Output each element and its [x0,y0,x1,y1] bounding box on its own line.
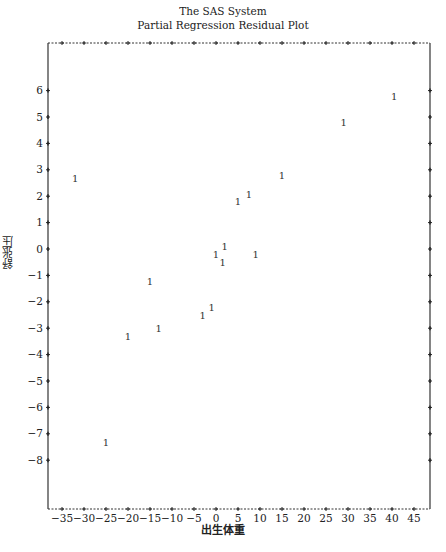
data-point: 1 [219,257,225,268]
y-tick-label: −7 [28,427,43,439]
y-axis-label: 舒张压 [2,236,22,269]
data-point: 1 [252,249,258,260]
data-point: 1 [340,117,346,128]
data-point: 1 [222,241,228,252]
data-point: 1 [208,302,214,313]
y-tick-label: 5 [36,111,43,123]
y-tick-label: −5 [28,375,43,387]
y-tick-label: 1 [36,216,43,228]
data-point: 1 [213,249,219,260]
x-axis-label: 出生体重 [0,521,446,537]
data-point: 1 [103,437,109,448]
y-tick-label: −8 [28,454,43,466]
data-point: 1 [391,91,397,102]
data-point: 1 [279,170,285,181]
y-tick-label: 4 [36,137,43,149]
data-point: 1 [147,276,153,287]
y-tick-label: −1 [28,269,43,281]
data-point: 1 [125,331,131,342]
data-point: 1 [235,196,241,207]
data-point: 1 [156,323,162,334]
data-point: 1 [200,310,206,321]
data-point: 1 [72,173,78,184]
y-tick-label: −3 [28,322,43,334]
data-point: 1 [246,189,252,200]
y-tick-label: −4 [28,348,44,360]
scatter-plot: −35−30−25−20−15−10−505101520253035404565… [0,0,446,552]
y-tick-label: 2 [36,190,43,202]
y-tick-label: 6 [36,84,43,96]
y-tick-label: 3 [36,163,43,175]
y-tick-label: 0 [36,243,43,255]
y-tick-label: −6 [28,401,44,413]
y-tick-label: −2 [28,295,43,307]
